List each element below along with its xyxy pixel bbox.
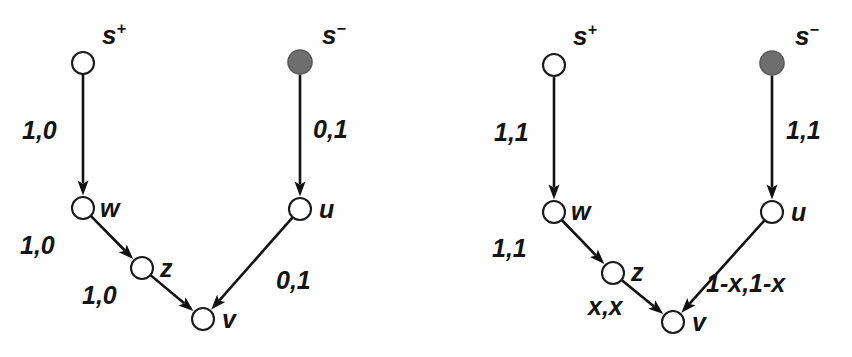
node-label-sminus: s− [322,22,346,48]
node-label-u: u [319,197,334,222]
edge-splus-w [78,75,89,196]
edge-w-z [91,216,133,259]
node-sminus[interactable] [760,51,784,75]
edge-sminus-u [767,76,778,200]
node-label-v: v [222,307,236,332]
edge-label-w-z: 1,0 [20,233,55,258]
node-w[interactable] [543,201,565,223]
edge-u-v [681,221,764,313]
node-splus[interactable] [72,52,94,74]
edge-sminus-u [295,75,306,197]
edge-label-u-v: 0,1 [276,268,311,293]
edge-label-splus-w: 1,0 [22,118,57,143]
node-u[interactable] [761,201,783,223]
edge-splus-w [549,77,560,200]
node-label-splus: s+ [573,23,597,49]
node-label-sminus: s− [795,23,819,49]
node-label-u: u [791,200,806,225]
node-v[interactable] [662,311,684,333]
edge-label-sminus-u: 0,1 [313,117,348,142]
edge-label-sminus-u: 1,1 [786,118,821,143]
node-label-superscript: − [809,20,818,38]
node-v[interactable] [192,308,214,330]
node-u[interactable] [289,198,311,220]
node-label-w: w [571,199,590,224]
edge-label-z-v: x,x [588,294,623,319]
edge-label-splus-w: 1,1 [494,120,529,145]
node-splus[interactable] [543,54,565,76]
node-z[interactable] [131,257,153,279]
node-z[interactable] [602,262,624,284]
graph-vector-layer [0,0,852,357]
edge-label-z-v: 1,0 [82,283,117,308]
node-label-v: v [692,310,706,335]
node-label-superscript: − [336,19,345,37]
node-label-superscript: + [587,20,596,38]
node-label-z: z [631,260,644,285]
edge-line [562,220,596,255]
edge-u-v [211,218,292,310]
node-label-w: w [100,196,119,221]
node-label-superscript: + [116,19,125,37]
edge-w-z [562,220,604,264]
edge-label-w-z: 1,1 [492,236,527,261]
node-w[interactable] [72,197,94,219]
node-sminus[interactable] [288,50,312,74]
node-label-splus: s+ [102,22,126,48]
figure-canvas: 1,00,11,01,00,1s+s−wzuv1,11,11,1x,x1-x,1… [0,0,852,357]
edge-label-u-v: 1-x,1-x [706,271,785,296]
node-label-z: z [160,256,173,281]
